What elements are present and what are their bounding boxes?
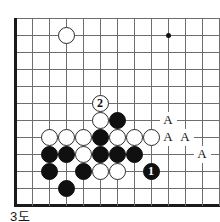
figure-caption: 3도 bbox=[10, 206, 30, 222]
stone-black bbox=[92, 146, 109, 163]
stone-black bbox=[58, 146, 75, 163]
stone-white bbox=[75, 129, 92, 146]
stone-black bbox=[92, 129, 109, 146]
board-edge-left bbox=[14, 18, 17, 206]
star-point bbox=[166, 33, 171, 38]
stone-white bbox=[92, 163, 109, 180]
stone-white bbox=[143, 129, 160, 146]
stone-white bbox=[58, 27, 75, 44]
go-diagram: 21 AAAA 3도 bbox=[0, 0, 220, 222]
grid-line-vertical bbox=[66, 18, 67, 206]
stone-black bbox=[41, 163, 58, 180]
stone-white bbox=[41, 129, 58, 146]
stone-white bbox=[58, 129, 75, 146]
stone-black bbox=[126, 146, 143, 163]
stone-move-number: 1 bbox=[148, 165, 154, 177]
stone-black bbox=[58, 180, 75, 197]
stone-white bbox=[109, 129, 126, 146]
stone-white bbox=[109, 163, 126, 180]
stone-white bbox=[92, 112, 109, 129]
stone-white bbox=[75, 146, 92, 163]
stone-move-number: 2 bbox=[97, 97, 103, 109]
stone-black-move-1: 1 bbox=[143, 163, 160, 180]
stone-black bbox=[75, 163, 92, 180]
grid-line-vertical bbox=[219, 18, 220, 206]
stone-white bbox=[126, 129, 143, 146]
grid-line-vertical bbox=[185, 18, 186, 206]
stone-black bbox=[41, 146, 58, 163]
board-marker-a: A bbox=[177, 129, 194, 146]
stone-white-move-2: 2 bbox=[92, 95, 109, 112]
board-marker-a: A bbox=[160, 112, 177, 129]
grid-line-vertical bbox=[32, 18, 33, 206]
board-marker-a: A bbox=[160, 129, 177, 146]
stone-black bbox=[109, 112, 126, 129]
board-marker-a: A bbox=[194, 146, 211, 163]
grid-line-vertical bbox=[134, 18, 135, 206]
grid-line-vertical bbox=[202, 18, 203, 206]
stone-black bbox=[109, 146, 126, 163]
